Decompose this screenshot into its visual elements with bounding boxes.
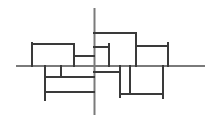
- abstract-line-diagram: [0, 0, 217, 121]
